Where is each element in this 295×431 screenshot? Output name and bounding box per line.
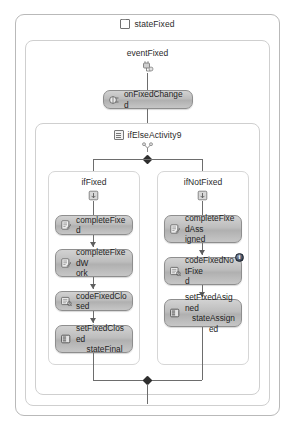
activity-set-fixed-asigned-state-assigned[interactable]: setFixedAsigned stateAssigned (164, 299, 242, 327)
arrow-right-1-2 (199, 250, 205, 255)
activity-code-fixed-closed[interactable]: codeFixedClosed (55, 291, 133, 311)
code-activity-icon (60, 219, 72, 231)
activity-label-line2: stateFinal (76, 344, 127, 355)
connector-event-to-handler (147, 73, 148, 90)
activity-label-wrapper: setFixedClosed stateFinal (76, 323, 127, 355)
activity-complete-fixed[interactable]: completeFixed (55, 215, 133, 235)
activity-label-line2: igned (185, 234, 236, 245)
activity-complete-fixed-assigned[interactable]: completeFixedAss igned (164, 215, 242, 243)
activity-on-fixed-changed[interactable]: onFixedChanged (103, 90, 193, 109)
activity-label-wrapper: completeFixedW ork (76, 247, 127, 279)
set-state-icon (169, 307, 181, 319)
activity-complete-fixed-work[interactable]: completeFixedW ork (55, 249, 133, 277)
code-activity-icon (169, 223, 181, 235)
activity-label-wrapper: setFixedAsigned stateAssigned (185, 292, 236, 334)
activity-label-line1: completeFixedW (76, 247, 125, 268)
activity-label-line2: d (185, 276, 236, 287)
branch-icon (88, 190, 99, 201)
connector-merge-tail (147, 384, 148, 404)
activity-label: completeFixed (76, 215, 127, 236)
branch-icon (197, 190, 208, 201)
branch-title-if-fixed: ifFixed (48, 177, 140, 187)
state-icon (120, 19, 130, 29)
arrow-left-3-4 (90, 318, 96, 323)
activity-label-line2: stateAssigned (185, 313, 236, 334)
state-title-row[interactable]: stateFixed (0, 19, 295, 29)
set-state-icon (60, 333, 72, 345)
code-activity-icon (60, 257, 72, 269)
ifelse-title: ifElseActivity9 (128, 130, 182, 140)
activity-label-line1: codeFixedNotFixe (185, 255, 234, 276)
ifelse-icon (141, 142, 154, 155)
activity-code-fixed-not-fixed[interactable]: codeFixedNotFixe d (164, 257, 242, 285)
arrow-left-1-2 (90, 242, 96, 247)
branch-title-if-not-fixed: ifNotFixed (157, 177, 249, 187)
activity-label-line1: setFixedAsigned (185, 292, 233, 313)
split-horizontal-connector (93, 159, 202, 160)
connector-branch-left-head (93, 201, 94, 215)
activity-set-fixed-closed-state-final[interactable]: setFixedClosed stateFinal (55, 325, 133, 353)
handle-external-event-icon (108, 94, 120, 106)
activity-label-wrapper: codeFixedNotFixe d (185, 255, 236, 287)
activity-label-line1: setFixedClosed (76, 323, 124, 344)
ifelse-grid-icon (114, 130, 124, 140)
event-handler-icon (141, 60, 154, 73)
ifelse-title-row[interactable]: ifElseActivity9 (0, 130, 295, 140)
activity-label-wrapper: completeFixedAss igned (185, 213, 236, 245)
code-condition-icon (60, 295, 72, 307)
info-badge[interactable] (235, 253, 244, 262)
event-driven-title: eventFixed (0, 48, 295, 58)
activity-label: codeFixedClosed (76, 291, 127, 312)
state-title: stateFixed (134, 19, 174, 29)
connector-right-branch-tail (202, 327, 203, 380)
connector-left-branch-tail (93, 353, 94, 380)
arrow-left-2-3 (90, 284, 96, 289)
split-drop-right (202, 159, 203, 171)
connector-handler-to-ifelse (147, 109, 148, 123)
activity-label-line1: completeFixedAss (185, 213, 234, 234)
code-condition-icon (169, 265, 181, 277)
activity-label: onFixedChanged (124, 89, 187, 110)
activity-label-line2: ork (76, 268, 127, 279)
split-drop-left (93, 159, 94, 171)
